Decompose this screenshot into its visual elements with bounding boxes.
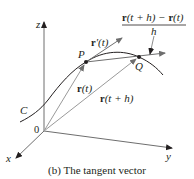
position-r-t-plus-h-label: r(t + h) bbox=[100, 92, 134, 105]
position-r-t-label-rest: (t) bbox=[82, 82, 93, 95]
point-q bbox=[137, 55, 141, 59]
y-axis-label: y bbox=[165, 150, 171, 162]
position-r-t-plus-h-label-rest: (t + h) bbox=[105, 92, 134, 105]
tangent-vector-label-rest: ′(t) bbox=[96, 36, 109, 49]
diagram-canvas: z 0 x y C P Q r′(t) r(t) r(t + h) r(t + … bbox=[0, 0, 194, 179]
quotient-numerator-rest-2: (t) bbox=[173, 11, 184, 24]
z-axis-label: z bbox=[35, 18, 41, 30]
point-p bbox=[84, 60, 88, 64]
x-axis bbox=[16, 131, 44, 158]
quotient-numerator-rest-1: (t + h) − bbox=[127, 11, 169, 24]
tangent-vector-label: r′(t) bbox=[91, 36, 109, 49]
curve-label: C bbox=[20, 104, 28, 116]
origin-label: 0 bbox=[34, 124, 39, 135]
x-axis-label: x bbox=[5, 152, 11, 164]
position-r-t-label: r(t) bbox=[77, 82, 92, 95]
point-q-label: Q bbox=[135, 60, 143, 72]
figure-caption: (b) The tangent vector bbox=[0, 164, 194, 176]
tangent-vector-figure: z 0 x y C P Q r′(t) r(t) r(t + h) r(t + … bbox=[0, 0, 194, 179]
quotient-numerator: r(t + h) − r(t) bbox=[122, 11, 184, 24]
quotient-pointer-arrow bbox=[150, 36, 154, 54]
y-axis bbox=[44, 131, 172, 148]
point-p-label: P bbox=[77, 48, 85, 60]
quotient-denominator: h bbox=[151, 25, 157, 37]
